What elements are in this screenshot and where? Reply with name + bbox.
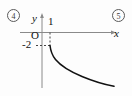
x-tick-label-1: 1 (48, 16, 54, 27)
y-tick-label-neg-2: -2 (22, 39, 31, 50)
y-axis-label: y (32, 13, 37, 24)
plot-canvas (0, 0, 132, 96)
origin-label: O (31, 30, 39, 41)
x-axis-label: x (114, 28, 119, 39)
y-axis-arrow-icon (40, 13, 44, 18)
curve-path (50, 46, 114, 87)
math-figure: 4 5 y x O 1 -2 (0, 0, 132, 96)
